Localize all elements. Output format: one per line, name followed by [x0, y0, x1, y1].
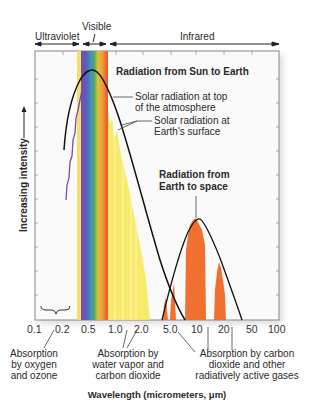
- svg-text:water vapor and: water vapor and: [91, 359, 164, 370]
- absorption-co2-label: Absorption by carbon dioxide and other r…: [195, 348, 298, 381]
- x-tick-100: 100: [268, 323, 286, 335]
- label-sun-to-earth: Radiation from Sun to Earth: [116, 66, 249, 77]
- svg-text:radiatively active gases: radiatively active gases: [195, 370, 298, 381]
- svg-text:by oxygen: by oxygen: [11, 359, 57, 370]
- x-axis-label: Wavelength (micrometers, μm): [88, 389, 227, 400]
- label-top-atmosphere-2: of the atmosphere: [135, 102, 216, 113]
- svg-text:and ozone: and ozone: [11, 370, 58, 381]
- x-tick-5.0: 5.0: [163, 323, 178, 335]
- label-top-atmosphere-1: Solar radiation at top: [135, 91, 228, 102]
- label-earth-to-space-2: Earth to space: [159, 181, 228, 192]
- band-label-visible: Visible: [82, 21, 112, 32]
- label-earth-to-space-1: Radiation from: [159, 169, 230, 180]
- y-axis-label-group: Increasing intensity: [18, 106, 29, 232]
- band-label-ultraviolet: Ultraviolet: [35, 31, 80, 42]
- svg-text:Absorption by carbon: Absorption by carbon: [200, 348, 295, 359]
- x-tick-1.0: 1.0: [108, 323, 123, 335]
- x-tick-2.0: 2.0: [134, 323, 149, 335]
- x-tick-50: 50: [246, 323, 258, 335]
- absorption-ozone-label: Absorption by oxygen and ozone: [10, 348, 58, 381]
- absorption-water-label: Absorption by water vapor and carbon dio…: [91, 348, 164, 381]
- svg-text:dioxide and other: dioxide and other: [209, 359, 286, 370]
- x-tick-0.1: 0.1: [27, 323, 42, 335]
- svg-text:carbon dioxide: carbon dioxide: [95, 370, 160, 381]
- x-tick-0.5: 0.5: [81, 323, 96, 335]
- x-tick-20: 20: [218, 323, 230, 335]
- svg-text:Absorption: Absorption: [10, 348, 58, 359]
- chart-text-layer: Ultraviolet Visible Infrared Radiation f…: [0, 0, 315, 412]
- label-surface-2: Earth's surface: [154, 126, 221, 137]
- label-surface-1: Solar radiation at: [154, 115, 230, 126]
- y-axis-label: Increasing intensity: [18, 138, 29, 232]
- x-tick-10: 10: [191, 323, 203, 335]
- x-tick-0.2: 0.2: [55, 323, 70, 335]
- band-label-infrared: Infrared: [180, 31, 214, 42]
- svg-text:Absorption by: Absorption by: [97, 348, 158, 359]
